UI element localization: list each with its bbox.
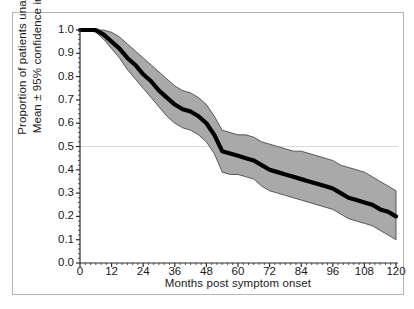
ci-band-group bbox=[80, 30, 396, 240]
confidence-interval-band bbox=[80, 30, 396, 240]
survival-curve-figure: Proportion of patients unaffected Mean ±… bbox=[0, 0, 414, 309]
plot-area bbox=[0, 0, 414, 309]
